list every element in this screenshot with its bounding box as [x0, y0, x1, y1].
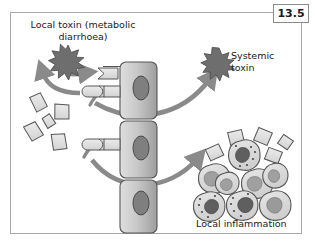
label-local-toxin: Local toxin (metabolicdiarrhoea)	[24, 19, 142, 43]
figure-number-badge: 13.5	[273, 4, 309, 23]
immune-cell-macrophage-3	[260, 191, 292, 221]
figure-container: Local toxin (metabolicdiarrhoea) Systemi…	[0, 0, 315, 249]
free-bacterium-4	[49, 132, 70, 153]
free-bacterium-3	[23, 121, 44, 142]
inflammation-bacterium-4	[264, 147, 283, 164]
inflammation-bacterium-2	[253, 127, 273, 146]
adherent-bacterium-2	[82, 86, 120, 97]
adherent-bacterium-3	[82, 139, 120, 150]
epithelial-cell-bottom	[120, 180, 157, 233]
nucleus	[133, 191, 149, 215]
label-local-toxin-line1: Local toxin (metabolic	[31, 19, 136, 30]
systemic-toxin-starburst	[201, 47, 235, 81]
inflammation-bacterium-5	[277, 134, 295, 151]
label-local-toxin-line2: diarrhoea)	[58, 31, 107, 42]
immune-cell-granulocyte-3	[227, 191, 259, 221]
inflammation-bacterium-3	[205, 143, 225, 161]
immune-cell-granulocyte-1	[229, 140, 261, 170]
label-local-inflammation: Local inflammation	[196, 218, 300, 230]
label-systemic-toxin: Systemictoxin	[231, 50, 293, 74]
free-bacterium-5	[41, 113, 56, 129]
nucleus	[133, 136, 149, 160]
free-bacterium-2	[53, 103, 71, 121]
epithelial-cell-middle	[120, 121, 157, 178]
label-systemic-toxin-line2: toxin	[231, 62, 255, 73]
nucleus	[133, 76, 149, 100]
free-bacterium-1	[29, 92, 47, 112]
immune-cell-macrophage-4	[263, 163, 288, 188]
immune-cell-granulocyte-2	[194, 192, 226, 222]
adherent-bacterium-1	[98, 67, 120, 80]
label-systemic-toxin-line1: Systemic	[231, 50, 274, 61]
epithelial-cell-top	[120, 62, 157, 119]
immune-cell-macrophage-5	[215, 172, 239, 194]
